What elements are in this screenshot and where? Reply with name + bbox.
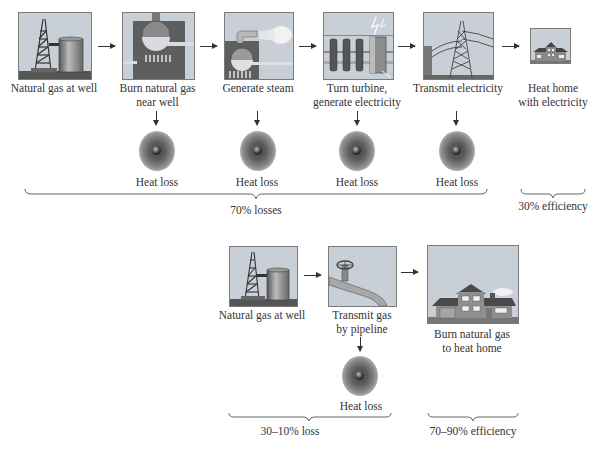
- arrow-right-icon: [304, 275, 321, 276]
- arrow-down-icon: [357, 111, 358, 125]
- step-label: Burn natural gas near well: [110, 81, 205, 109]
- step-label: Transmit electricity: [404, 81, 512, 95]
- gas-well-icon: [229, 246, 298, 307]
- arrow-down-icon: [156, 111, 157, 125]
- arrow-down-icon: [360, 337, 361, 351]
- gas-well-icon: [18, 12, 92, 80]
- house-icon: [427, 245, 519, 324]
- loss-summary: 70% losses: [206, 203, 306, 217]
- arrow-right-icon: [398, 46, 415, 47]
- step-label: Natural gas at well: [208, 308, 316, 322]
- heat-loss-label: Heat loss: [126, 175, 188, 189]
- arrow-right-icon: [299, 46, 316, 47]
- power-tower-icon: [423, 12, 494, 80]
- furnace-icon: [122, 12, 195, 80]
- arrow-right-icon: [502, 46, 519, 47]
- efficiency-summary: 70–90% efficiency: [418, 424, 528, 438]
- heat-loss-icon: [342, 356, 378, 396]
- heat-loss-label: Heat loss: [226, 175, 288, 189]
- efficiency-summary: 30% efficiency: [508, 199, 598, 213]
- turbine-icon: [323, 12, 394, 80]
- step-label: Turn turbine, generate electricity: [302, 81, 412, 109]
- heat-loss-label: Heat loss: [326, 175, 388, 189]
- step-label: Natural gas at well: [0, 81, 108, 95]
- heat-loss-icon: [339, 131, 375, 171]
- step-label: Burn natural gas to heat home: [420, 327, 524, 355]
- losses-brace: [228, 412, 392, 422]
- arrow-down-icon: [456, 111, 457, 125]
- heat-loss-label: Heat loss: [330, 399, 392, 413]
- losses-brace: [24, 188, 488, 200]
- heat-loss-label: Heat loss: [426, 175, 488, 189]
- step-label: Generate steam: [212, 81, 304, 95]
- arrow-right-icon: [98, 46, 115, 47]
- boiler-steam-icon: [224, 12, 294, 80]
- heat-loss-icon: [240, 131, 276, 171]
- pipeline-icon: [328, 246, 397, 307]
- arrow-right-icon: [200, 46, 217, 47]
- efficiency-brace: [427, 412, 519, 422]
- heat-loss-icon: [139, 131, 175, 171]
- arrow-right-icon: [401, 272, 418, 273]
- loss-summary: 30–10% loss: [250, 424, 330, 438]
- house-icon: [530, 28, 571, 64]
- step-label: Transmit gas by pipeline: [312, 308, 412, 336]
- step-label: Heat home with electricity: [508, 81, 598, 109]
- heat-loss-icon: [439, 131, 475, 171]
- arrow-down-icon: [257, 111, 258, 125]
